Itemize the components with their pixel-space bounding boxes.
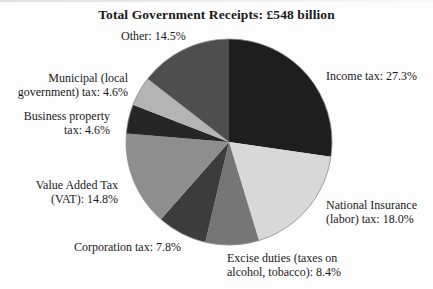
slice-label-municipal-tax: Municipal (local government) tax: 4.6% [18, 72, 128, 99]
slice-label-text: government) tax: 4.6% [18, 86, 128, 100]
pie-chart [0, 0, 433, 289]
slice-label-text: Business property [24, 110, 110, 124]
slice-label-text: Excise duties (taxes on [227, 252, 341, 266]
slice-label-business-property-tax: Business property tax: 4.6% [24, 110, 110, 137]
slice-label-text: (labor) tax: 18.0% [326, 213, 417, 227]
slice-label-other: Other: 14.5% [121, 30, 186, 44]
slice-label-text: National Insurance [326, 199, 417, 213]
slice-label-text: Value Added Tax [36, 179, 118, 193]
slice-label-text: alcohol, tobacco): 8.4% [227, 266, 341, 280]
slice-label-text: Other: 14.5% [121, 30, 186, 44]
slice-label-national-insurance: National Insurance (labor) tax: 18.0% [326, 199, 417, 226]
slice-label-text: Income tax: 27.3% [326, 70, 417, 84]
slice-label-income-tax: Income tax: 27.3% [326, 70, 417, 84]
pie-slice-income-tax [229, 39, 332, 157]
slice-label-text: tax: 4.6% [24, 124, 110, 138]
slice-label-corporation-tax: Corporation tax: 7.8% [74, 241, 181, 255]
pie-chart-figure: Total Government Receipts: £548 billion … [0, 0, 433, 289]
slice-label-text: (VAT): 14.8% [36, 193, 118, 207]
slice-label-vat: Value Added Tax (VAT): 14.8% [36, 179, 118, 206]
slice-label-text: Municipal (local [18, 72, 128, 86]
slice-label-excise-duties: Excise duties (taxes on alcohol, tobacco… [227, 252, 341, 279]
slice-label-text: Corporation tax: 7.8% [74, 241, 181, 255]
